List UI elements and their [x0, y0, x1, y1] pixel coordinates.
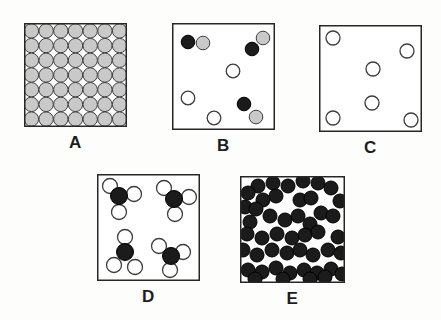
white-particle	[127, 187, 142, 202]
white-particle	[226, 64, 240, 78]
gray-particle	[39, 83, 53, 97]
gray-particle	[98, 53, 112, 67]
gray-particle	[68, 83, 82, 97]
black-particle	[280, 246, 294, 260]
gray-particle	[98, 83, 112, 97]
gray-particle	[39, 112, 53, 126]
black-particle	[181, 35, 195, 49]
black-particle	[248, 272, 262, 283]
panel-c-label: C	[319, 138, 422, 158]
black-particle	[324, 181, 338, 195]
gray-particle	[24, 112, 38, 126]
gray-particle	[83, 53, 97, 67]
white-particle	[365, 96, 379, 110]
gray-particle	[54, 68, 68, 82]
black-particle	[255, 231, 269, 245]
gray-particle	[39, 38, 53, 52]
black-particle	[163, 248, 180, 265]
panel-b-label: B	[172, 136, 275, 156]
gray-particle	[112, 53, 126, 67]
gray-particle	[83, 112, 97, 126]
black-particle	[326, 209, 340, 223]
black-particle	[306, 248, 320, 262]
white-particle	[326, 111, 340, 125]
gray-particle	[54, 112, 68, 126]
gray-particle	[68, 112, 82, 126]
white-particle	[326, 31, 340, 45]
gray-particle	[54, 53, 68, 67]
gray-particle	[24, 38, 38, 52]
particle-diagram-figure: A B C D E	[0, 0, 441, 320]
gray-particle	[54, 97, 68, 111]
black-particle	[291, 209, 305, 223]
black-particle	[245, 42, 259, 56]
gray-particle	[68, 24, 82, 38]
black-particle	[334, 246, 345, 260]
gray-particle	[83, 24, 97, 38]
gray-particle	[98, 112, 112, 126]
gray-particle	[112, 83, 126, 97]
black-particle	[249, 202, 263, 216]
gray-particle	[98, 97, 112, 111]
white-particle	[168, 207, 183, 222]
black-particle	[237, 97, 251, 111]
gray-particle	[24, 68, 38, 82]
black-particle	[298, 228, 312, 242]
gray-particle	[68, 68, 82, 82]
panel-b: B	[172, 23, 275, 156]
black-particle	[296, 176, 310, 188]
gray-particle	[83, 83, 97, 97]
white-particle	[107, 258, 122, 273]
black-particle	[278, 213, 292, 227]
gray-particle	[112, 68, 126, 82]
black-particle	[111, 188, 128, 205]
black-particle	[311, 225, 325, 239]
gray-particle	[256, 31, 270, 45]
black-particle	[240, 227, 254, 241]
white-particle	[112, 205, 127, 220]
white-particle	[366, 62, 380, 76]
white-particle	[181, 91, 195, 105]
black-particle	[304, 191, 318, 205]
particle-box-b-diagram	[172, 23, 275, 130]
white-particle	[207, 111, 221, 125]
black-particle	[263, 209, 277, 223]
gray-particle	[68, 38, 82, 52]
black-particle	[250, 248, 264, 262]
gray-particle	[112, 112, 126, 126]
gray-particle	[98, 24, 112, 38]
gray-particle	[54, 38, 68, 52]
gray-particle	[83, 68, 97, 82]
black-particle	[265, 243, 279, 257]
panel-e-label: E	[240, 289, 345, 309]
panel-a: A	[24, 23, 127, 153]
particle-box-c-diagram	[319, 25, 422, 132]
black-particle	[117, 244, 134, 261]
black-particle	[293, 243, 307, 257]
white-particle	[400, 44, 414, 58]
panel-a-label: A	[24, 133, 127, 153]
gray-particle	[54, 24, 68, 38]
white-particle	[404, 113, 418, 127]
black-particle	[166, 191, 183, 208]
black-particle	[241, 186, 255, 200]
black-particle	[276, 272, 290, 283]
black-particle	[318, 270, 332, 283]
white-particle	[182, 190, 197, 205]
gray-particle	[24, 24, 38, 38]
gray-particle	[68, 53, 82, 67]
gray-particle	[98, 38, 112, 52]
black-particle	[285, 231, 299, 245]
black-particle	[269, 189, 283, 203]
particle-box-e-diagram	[240, 176, 345, 283]
white-particle	[118, 230, 133, 245]
gray-particle	[112, 38, 126, 52]
gray-particle	[39, 53, 53, 67]
particle-box-a-diagram	[24, 23, 127, 127]
gray-particle	[24, 83, 38, 97]
gray-particle	[83, 97, 97, 111]
black-particle	[281, 179, 295, 193]
black-particle	[270, 227, 284, 241]
gray-particle	[39, 97, 53, 111]
gray-particle	[39, 24, 53, 38]
